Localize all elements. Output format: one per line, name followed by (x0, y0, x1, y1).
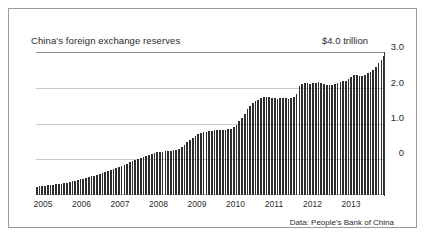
bar (353, 75, 355, 195)
bar (159, 152, 161, 195)
y-tick-label-0: 0 (374, 147, 404, 158)
bar (140, 158, 142, 195)
x-tick-label-2010: 2010 (216, 199, 256, 209)
bar (134, 160, 136, 195)
x-tick-label-2007: 2007 (100, 199, 140, 209)
bar (238, 121, 240, 195)
bar (113, 169, 115, 195)
bar (145, 156, 147, 195)
bar (44, 186, 46, 195)
bar (189, 140, 191, 195)
x-tick-label-2009: 2009 (177, 199, 217, 209)
bar (288, 99, 290, 195)
bar (296, 94, 298, 195)
bar (350, 77, 352, 195)
bar (348, 79, 350, 195)
bar (47, 185, 49, 195)
bar (121, 166, 123, 195)
bar (337, 83, 339, 195)
bar (91, 176, 93, 195)
plot-area (36, 52, 384, 195)
bar (318, 82, 320, 195)
x-tick-label-2008: 2008 (139, 199, 179, 209)
bar (219, 130, 221, 195)
bar (151, 154, 153, 195)
bar (274, 98, 276, 195)
bar (307, 83, 309, 195)
chart-frame: China's foreign exchange reserves $4.0 t… (8, 8, 417, 228)
bar (137, 159, 139, 195)
x-tick-label-2013: 2013 (331, 199, 371, 209)
bar (184, 145, 186, 195)
bar (96, 175, 98, 195)
bar (367, 73, 369, 195)
bar (93, 176, 95, 195)
bar (361, 76, 363, 195)
bar (304, 83, 306, 195)
bar (203, 132, 205, 195)
bar (214, 130, 216, 195)
bar (233, 127, 235, 195)
bar (268, 97, 270, 195)
bar (329, 85, 331, 195)
bar (208, 131, 210, 195)
bar (227, 129, 229, 195)
bar (200, 133, 202, 195)
bar (36, 187, 38, 195)
bar (107, 171, 109, 195)
bar (236, 125, 238, 195)
bar (309, 84, 311, 195)
y-tick-label-1: 1.0 (374, 112, 404, 123)
bar (104, 172, 106, 195)
bar (175, 150, 177, 195)
bar (148, 155, 150, 195)
bar (252, 103, 254, 195)
bar (301, 84, 303, 195)
bar (260, 98, 262, 195)
bar (132, 161, 134, 195)
bar (331, 85, 333, 195)
bar (110, 170, 112, 195)
bar (282, 98, 284, 195)
y-tick-label-3: 3.0 (374, 41, 404, 52)
bar (118, 167, 120, 195)
bar (216, 130, 218, 195)
bar (257, 100, 259, 195)
bar (277, 99, 279, 195)
bar (63, 183, 65, 195)
y-tick-label-2: 2.0 (374, 77, 404, 88)
bar (165, 151, 167, 195)
bar (102, 173, 104, 195)
bar (192, 138, 194, 195)
x-tick-label-2005: 2005 (23, 199, 63, 209)
bar (124, 165, 126, 195)
bar (154, 153, 156, 195)
bar (340, 82, 342, 195)
bar (334, 84, 336, 195)
bar (255, 101, 257, 195)
bar (372, 70, 374, 195)
bar (315, 83, 317, 195)
bar (370, 72, 372, 195)
bar (39, 186, 41, 195)
bar (41, 186, 43, 195)
bar (222, 130, 224, 195)
bar (266, 97, 268, 195)
bar (61, 184, 63, 195)
bar (279, 98, 281, 195)
bar (356, 75, 358, 195)
bar (80, 179, 82, 195)
bar (195, 136, 197, 195)
bar (364, 75, 366, 195)
bar (72, 181, 74, 195)
bar (58, 184, 60, 195)
chart-title: China's foreign exchange reserves (31, 35, 180, 46)
bar (55, 184, 57, 195)
bar (249, 106, 251, 195)
bar (85, 178, 87, 195)
bar (173, 150, 175, 195)
x-tick-label-2011: 2011 (254, 199, 294, 209)
bar (320, 83, 322, 195)
bar (50, 185, 52, 195)
bar (263, 97, 265, 195)
